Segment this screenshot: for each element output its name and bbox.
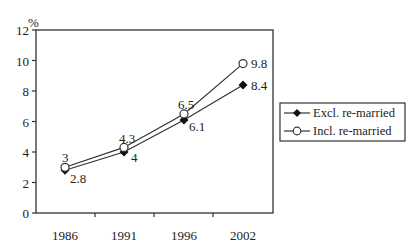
y-tick-label: 10 (16, 54, 29, 69)
x-tick-label: 2002 (230, 228, 256, 243)
y-tick-label: 0 (23, 206, 30, 221)
y-tick-label: 4 (23, 145, 30, 160)
data-label: 4.3 (119, 131, 135, 146)
y-tick-label: 6 (23, 115, 30, 130)
x-tick-label: 1986 (52, 228, 79, 243)
data-label: 2.8 (70, 171, 86, 186)
y-tick-label: 2 (23, 176, 30, 191)
x-tick-label: 1996 (171, 228, 198, 243)
series-excl-remarried (61, 80, 248, 174)
x-tick-labels: 1986 1991 1996 2002 (52, 228, 256, 243)
data-label: 6.1 (189, 119, 205, 134)
legend-label: Excl. re-married (313, 106, 396, 120)
data-labels: 3 2.8 4.3 4 6.5 6.1 9.8 8.4 (62, 56, 268, 186)
x-tick-label: 1991 (111, 228, 137, 243)
series-incl-remarried (61, 60, 247, 172)
data-label: 4 (131, 150, 138, 165)
diamond-marker (239, 80, 248, 89)
line-chart: 0 2 4 6 8 10 12 % 1986 1991 1996 2002 3 (0, 0, 415, 252)
circle-marker (239, 60, 247, 68)
data-label: 8.4 (251, 78, 268, 93)
legend-label: Incl. re-married (313, 124, 392, 138)
data-label: 9.8 (251, 56, 267, 71)
y-tick-label: 8 (23, 84, 30, 99)
y-tick-labels: 0 2 4 6 8 10 12 (16, 23, 30, 221)
y-axis-unit: % (28, 15, 39, 30)
data-label: 6.5 (178, 97, 194, 112)
legend: Excl. re-married Incl. re-married (280, 103, 405, 141)
data-label: 3 (62, 150, 69, 165)
legend-circle-icon (293, 127, 301, 135)
